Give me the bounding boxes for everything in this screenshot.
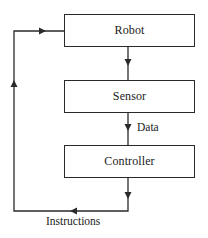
edge-sensor-to-controller xyxy=(125,112,132,145)
arrow-down-icon xyxy=(125,124,132,131)
robot-box: Robot xyxy=(64,14,195,47)
arrow-down-icon xyxy=(125,59,132,66)
arrow-down-icon xyxy=(125,192,132,199)
arrow-up-icon xyxy=(11,80,18,87)
data-edge-label: Data xyxy=(137,121,159,133)
edge-robot-to-sensor xyxy=(125,46,132,80)
arrow-right-icon xyxy=(39,28,46,35)
robot-label: Robot xyxy=(115,23,145,38)
controller-label: Controller xyxy=(104,154,154,169)
sensor-label: Sensor xyxy=(113,89,146,104)
edge-controller-to-robot xyxy=(11,28,132,215)
controller-box: Controller xyxy=(64,145,195,178)
feedback-diagram: Robot Sensor Controller Data Instruction… xyxy=(0,0,208,238)
sensor-box: Sensor xyxy=(64,80,195,113)
instructions-edge-label: Instructions xyxy=(46,215,100,227)
arrow-left-icon xyxy=(70,208,77,215)
